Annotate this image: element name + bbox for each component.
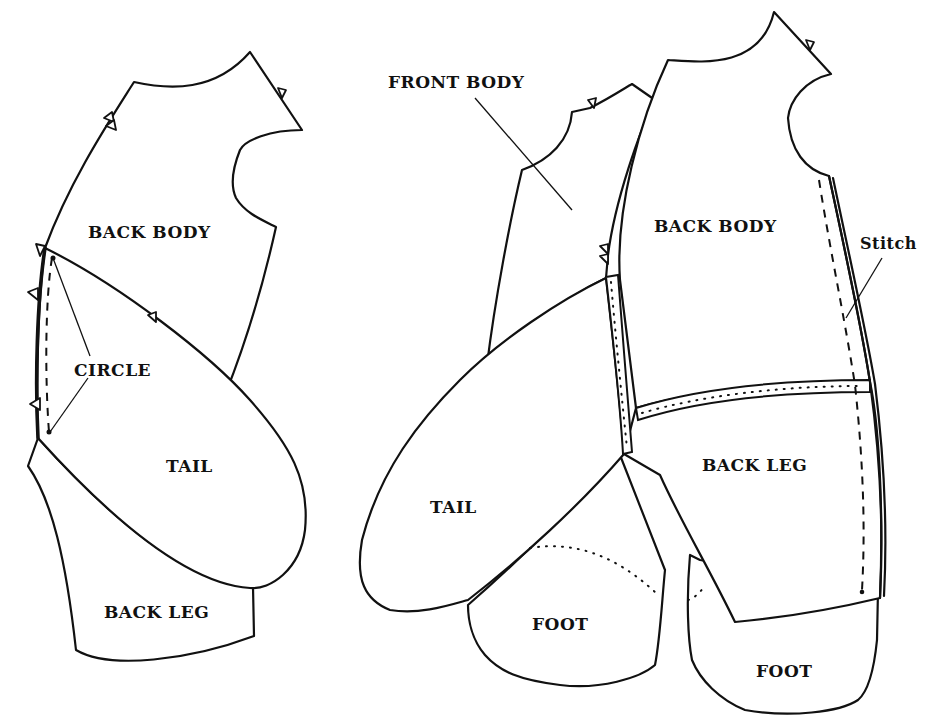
stitch-label: Stitch bbox=[860, 234, 917, 253]
front-body-label: FRONT BODY bbox=[388, 72, 524, 92]
right-figure bbox=[360, 12, 885, 714]
sewing-pattern-diagram: BACK BODY CIRCLE TAIL BACK LEG FRONT BOD… bbox=[0, 0, 941, 724]
right-foot-label: FOOT bbox=[756, 661, 812, 681]
left-figure bbox=[28, 52, 306, 661]
notch-icon bbox=[588, 98, 596, 108]
right-back-leg-label: BACK LEG bbox=[702, 455, 807, 475]
right-back-body-piece bbox=[619, 12, 870, 408]
left-back-body-label: BACK BODY bbox=[88, 222, 211, 242]
stitch-end-mark bbox=[860, 590, 865, 595]
left-foot-label: FOOT bbox=[532, 614, 588, 634]
right-back-body-label: BACK BODY bbox=[654, 216, 777, 236]
left-circle-label: CIRCLE bbox=[74, 360, 151, 380]
notch-icon bbox=[28, 288, 38, 300]
right-tail-label: TAIL bbox=[430, 497, 477, 517]
left-tail-label: TAIL bbox=[166, 456, 213, 476]
left-back-leg-label: BACK LEG bbox=[104, 602, 209, 622]
